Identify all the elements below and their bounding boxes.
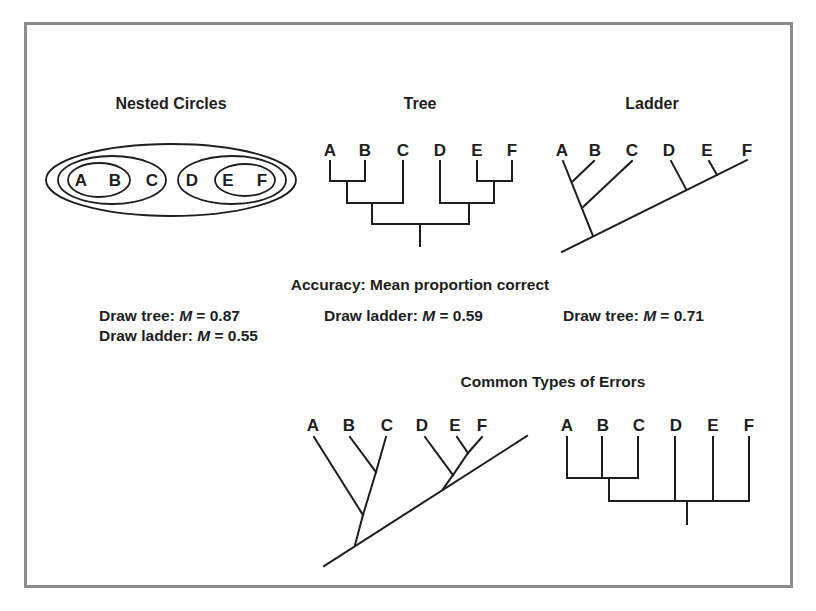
leaf-label: A — [561, 416, 573, 435]
branch-ef — [477, 161, 512, 181]
branch-e — [709, 161, 717, 175]
leaf-label: B — [343, 416, 355, 435]
branch-e — [457, 437, 468, 453]
leaf-label: F — [742, 141, 752, 160]
leaf-label: F — [477, 416, 487, 435]
accuracy-title: Accuracy: Mean proportion correct — [291, 276, 549, 293]
result-draw-ladder-1: Draw ladder: M = 0.55 — [99, 327, 258, 344]
leaf-label: A — [324, 141, 336, 160]
error-tree-diagram: A B C D E F — [561, 416, 754, 524]
branch-root — [609, 437, 749, 501]
leaf-label: C — [626, 141, 638, 160]
leaf-label: E — [471, 141, 482, 160]
leaf-label: B — [597, 416, 609, 435]
leaf-label: A — [75, 171, 87, 190]
main-line — [562, 160, 747, 252]
branch-c — [583, 161, 632, 207]
leaf-label: F — [507, 141, 517, 160]
branch-b — [350, 437, 376, 472]
leaf-label: D — [663, 141, 675, 160]
leaf-label: D — [670, 416, 682, 435]
leaf-label: C — [633, 416, 645, 435]
nested-circles-title: Nested Circles — [115, 95, 226, 112]
ladder-title: Ladder — [625, 95, 678, 112]
leaf-label: D — [416, 416, 428, 435]
bc-trunk — [363, 472, 376, 515]
branch-ab — [330, 161, 365, 181]
leaf-label: D — [186, 171, 198, 190]
leaf-label: F — [257, 171, 267, 190]
result-draw-ladder-2: Draw ladder: M = 0.59 — [324, 307, 483, 324]
branch-a — [563, 161, 593, 236]
branch-d — [671, 161, 686, 189]
leaf-label: D — [434, 141, 446, 160]
result-draw-tree-1: Draw tree: M = 0.87 — [99, 307, 240, 324]
abc-trunk — [355, 515, 363, 545]
branch-d — [425, 437, 453, 475]
leaf-label: C — [381, 416, 393, 435]
nested-circles-diagram: A B C D E F — [46, 144, 296, 216]
leaf-label: F — [744, 416, 754, 435]
leaf-label: E — [449, 416, 460, 435]
branch-f — [468, 437, 482, 453]
errors-title: Common Types of Errors — [461, 373, 646, 390]
leaf-label: C — [397, 141, 409, 160]
leaf-label: B — [109, 171, 121, 190]
error-ladder-diagram: A B C D E F — [307, 416, 527, 566]
figure-canvas: Nested Circles Tree Ladder A B C D E F A… — [0, 0, 816, 611]
result-draw-tree-2: Draw tree: M = 0.71 — [563, 307, 704, 324]
tree-diagram: A B C D E F — [324, 141, 517, 246]
leaf-label: E — [701, 141, 712, 160]
tree-title: Tree — [404, 95, 437, 112]
leaf-label: E — [707, 416, 718, 435]
branch-a — [314, 437, 363, 515]
ef-trunk — [453, 453, 468, 475]
branch-b — [573, 161, 594, 181]
branch-c — [376, 437, 386, 472]
ladder-diagram: A B C D E F — [556, 141, 752, 252]
leaf-label: A — [556, 141, 568, 160]
leaf-label: E — [222, 171, 233, 190]
branch-root — [372, 203, 469, 224]
leaf-label: B — [589, 141, 601, 160]
leaf-label: C — [146, 171, 158, 190]
leaf-label: A — [307, 416, 319, 435]
leaf-label: B — [359, 141, 371, 160]
